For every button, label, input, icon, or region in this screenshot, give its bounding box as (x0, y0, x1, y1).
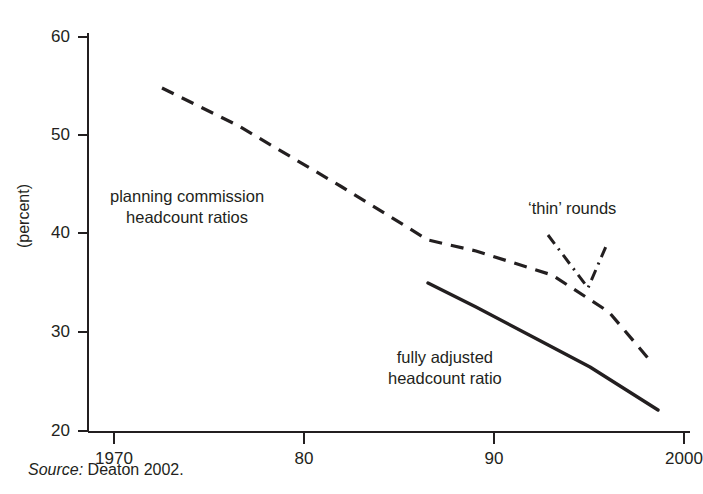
annotation-fully-adjusted: fully adjusted headcount ratio (388, 347, 502, 389)
y-tick-label-40: 40 (36, 224, 70, 241)
y-tick-label-60: 60 (36, 28, 70, 45)
y-axis-ticks (78, 37, 88, 431)
chart-plot-area: 60 50 40 30 20 1970 80 90 2000 (percent)… (0, 0, 703, 452)
y-tick-label-20: 20 (36, 422, 70, 439)
y-axis-title: (percent) (15, 176, 33, 256)
annotation-thin-rounds: ‘thin’ rounds (528, 198, 616, 219)
annotation-fully-line2: headcount ratio (388, 368, 502, 389)
x-tick-label-90: 90 (459, 450, 529, 467)
annotation-fully-line1: fully adjusted (388, 347, 502, 368)
figure-container: 60 50 40 30 20 1970 80 90 2000 (percent)… (0, 0, 703, 494)
source-text: Deaton 2002. (88, 461, 184, 478)
source-note: Source: Deaton 2002. (28, 461, 184, 479)
annotation-planning-line1: planning commission (110, 186, 264, 207)
x-tick-label-2000: 2000 (649, 450, 703, 467)
source-label: Source: (28, 461, 83, 478)
y-tick-label-30: 30 (36, 323, 70, 340)
chart-svg (0, 0, 703, 452)
x-tick-label-80: 80 (269, 450, 339, 467)
annotation-planning-line2: headcount ratios (110, 207, 264, 228)
annotation-planning-commission: planning commission headcount ratios (110, 186, 264, 228)
x-axis-ticks (114, 432, 684, 444)
y-tick-label-50: 50 (36, 126, 70, 143)
